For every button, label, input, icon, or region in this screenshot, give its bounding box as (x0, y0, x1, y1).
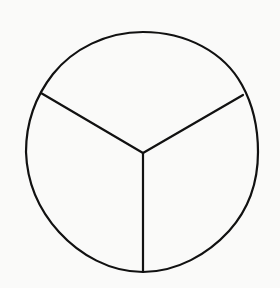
upper-left-radius (41, 93, 143, 153)
circle-thirds-diagram: Circle divided into three equal sectors (0, 0, 280, 288)
upper-right-radius (143, 95, 243, 153)
figure-canvas: Circle divided into three equal sectors (0, 0, 280, 288)
